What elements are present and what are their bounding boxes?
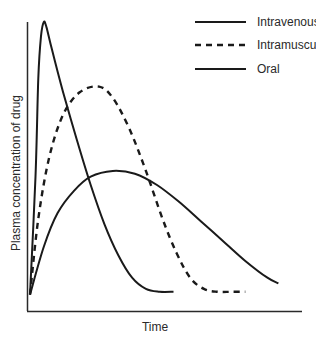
legend-label: Intravenous: [257, 15, 316, 29]
intravenous-curve: [30, 22, 174, 295]
x-axis-label: Time: [142, 320, 169, 334]
y-axis-label: Plasma concentration of drug: [9, 95, 23, 251]
legend-item-intravenous: Intravenous: [195, 15, 316, 29]
legend-label: Intramuscular: [257, 38, 316, 52]
legend-label: Oral: [257, 62, 280, 76]
legend-item-oral: Oral: [195, 62, 280, 76]
oral-curve: [30, 171, 278, 295]
legend-item-intramuscular: Intramuscular: [195, 38, 316, 52]
pharmacokinetics-chart: Intravenous Intramuscular Oral Time Plas…: [0, 0, 316, 338]
intramuscular-curve: [30, 86, 245, 294]
plot-area: [30, 22, 278, 295]
legend: Intravenous Intramuscular Oral: [195, 15, 316, 76]
